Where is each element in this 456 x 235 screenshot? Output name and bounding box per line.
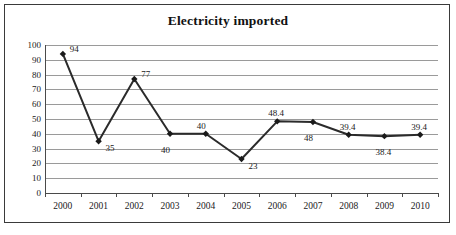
y-axis-tick-label: 90 — [19, 56, 41, 65]
x-axis-tick — [438, 193, 439, 197]
data-point-label: 39.4 — [411, 122, 427, 132]
data-point-label: 48 — [304, 133, 313, 143]
data-point-label: 77 — [141, 69, 150, 79]
y-axis-tick-labels: 0102030405060708090100 — [13, 41, 41, 193]
x-axis-tick — [81, 193, 82, 197]
x-axis-tick — [45, 193, 46, 197]
chart-frame: Electricity imported 0102030405060708090… — [4, 4, 450, 223]
y-axis-tick-label: 60 — [19, 100, 41, 109]
x-axis-tick-label: 2008 — [331, 201, 367, 211]
y-axis-tick-label: 20 — [19, 159, 41, 168]
y-axis-tick-label: 70 — [19, 85, 41, 94]
x-axis-tick-label: 2010 — [402, 201, 438, 211]
x-axis-tick — [188, 193, 189, 197]
x-axis-tick-label: 2000 — [45, 201, 81, 211]
chart-title: Electricity imported — [5, 13, 451, 29]
x-axis-tick-label: 2006 — [259, 201, 295, 211]
y-axis-tick-label: 30 — [19, 145, 41, 154]
x-axis-tick-label: 2002 — [116, 201, 152, 211]
y-axis-tick-label: 100 — [19, 41, 41, 50]
data-point-label: 38.4 — [375, 147, 391, 157]
x-axis-tick — [402, 193, 403, 197]
data-point-label: 94 — [70, 44, 79, 54]
y-axis-tick-label: 0 — [19, 189, 41, 198]
x-axis-ticks — [45, 193, 439, 198]
data-point-label: 40 — [197, 121, 206, 131]
x-axis-tick-label: 2007 — [295, 201, 331, 211]
data-point-labels: 94357740402348.44839.438.439.4 — [45, 41, 438, 193]
x-axis-tick-label: 2009 — [367, 201, 403, 211]
x-axis-tick-label: 2005 — [224, 201, 260, 211]
x-axis-tick-label: 2004 — [188, 201, 224, 211]
x-axis-tick-label: 2003 — [152, 201, 188, 211]
data-point-label: 39.4 — [340, 122, 356, 132]
data-point-label: 23 — [249, 161, 258, 171]
data-point-label: 35 — [106, 143, 115, 153]
x-axis-tick — [259, 193, 260, 197]
x-axis-tick — [331, 193, 332, 197]
data-point-label: 40 — [161, 145, 170, 155]
y-axis-tick-label: 40 — [19, 130, 41, 139]
x-axis-tick — [295, 193, 296, 197]
x-axis-tick-label: 2001 — [81, 201, 117, 211]
x-axis-tick — [367, 193, 368, 197]
x-axis-tick — [224, 193, 225, 197]
x-axis-tick — [116, 193, 117, 197]
data-point-label: 48.4 — [268, 108, 284, 118]
y-axis-tick-label: 10 — [19, 174, 41, 183]
x-axis-tick — [152, 193, 153, 197]
y-axis-tick-label: 50 — [19, 115, 41, 124]
x-axis-tick-labels: 2000200120022003200420052006200720082009… — [45, 201, 438, 217]
y-axis-tick-label: 80 — [19, 71, 41, 80]
